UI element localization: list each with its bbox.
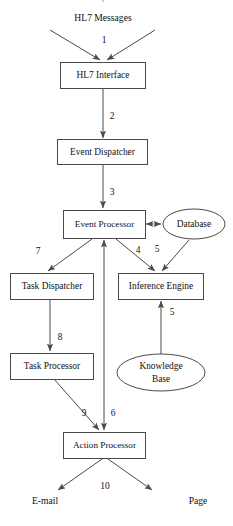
edge-label-4: 4 xyxy=(136,245,141,255)
node-event-processor-label: Event Processor xyxy=(75,219,134,229)
node-action-processor-label: Action Processor xyxy=(73,440,136,450)
edge-label-5-knowledge-base: 5 xyxy=(170,307,175,317)
edge-7-arrow xyxy=(48,239,92,271)
node-inference-engine[interactable]: Inference Engine xyxy=(119,274,204,300)
node-knowledge-base[interactable]: Knowledge Base xyxy=(117,354,205,391)
edge-label-7: 7 xyxy=(36,246,41,256)
edge-5-database-arrow xyxy=(162,240,189,271)
node-task-dispatcher[interactable]: Task Dispatcher xyxy=(11,274,94,300)
edge-9-arrow xyxy=(54,379,99,430)
edge-label-5-database: 5 xyxy=(155,244,160,254)
node-knowledge-base-label-line2: Base xyxy=(152,374,170,384)
edge-label-10: 10 xyxy=(100,481,110,491)
node-task-processor-label: Task Processor xyxy=(24,361,81,371)
flow-diagram: HL7 Messages HL7 Interface Event Dispatc… xyxy=(0,0,233,526)
node-database-label: Database xyxy=(177,219,211,229)
node-event-dispatcher-label: Event Dispatcher xyxy=(70,147,136,157)
node-hl7-interface[interactable]: HL7 Interface xyxy=(61,63,146,89)
node-inference-engine-label: Inference Engine xyxy=(129,281,193,291)
node-database[interactable]: Database xyxy=(163,209,225,239)
edge-label-8: 8 xyxy=(58,332,63,342)
node-action-processor[interactable]: Action Processor xyxy=(64,433,146,459)
edge-label-6: 6 xyxy=(111,408,116,418)
node-task-dispatcher-label: Task Dispatcher xyxy=(22,281,83,291)
edge-label-2: 2 xyxy=(110,111,115,121)
node-page-label: Page xyxy=(189,495,208,506)
node-hl7-messages-label: HL7 Messages xyxy=(74,12,132,23)
edge-1-right-arrow xyxy=(107,30,155,60)
node-email-label: E-mail xyxy=(32,495,58,506)
edge-10-email-arrow xyxy=(58,459,102,490)
node-hl7-interface-label: HL7 Interface xyxy=(77,70,130,80)
edge-label-1: 1 xyxy=(102,35,107,45)
node-knowledge-base-ellipse[interactable] xyxy=(117,354,205,391)
edge-10-page-arrow xyxy=(108,459,152,490)
edge-1-left-arrow xyxy=(50,30,100,60)
edge-label-9: 9 xyxy=(82,408,87,418)
node-task-processor[interactable]: Task Processor xyxy=(11,354,94,380)
node-event-processor[interactable]: Event Processor xyxy=(64,211,146,239)
diagram-canvas: HL7 Messages HL7 Interface Event Dispatc… xyxy=(0,0,233,526)
node-knowledge-base-label-line1: Knowledge xyxy=(139,361,182,371)
node-event-dispatcher[interactable]: Event Dispatcher xyxy=(58,140,148,165)
edge-label-3: 3 xyxy=(110,187,115,197)
